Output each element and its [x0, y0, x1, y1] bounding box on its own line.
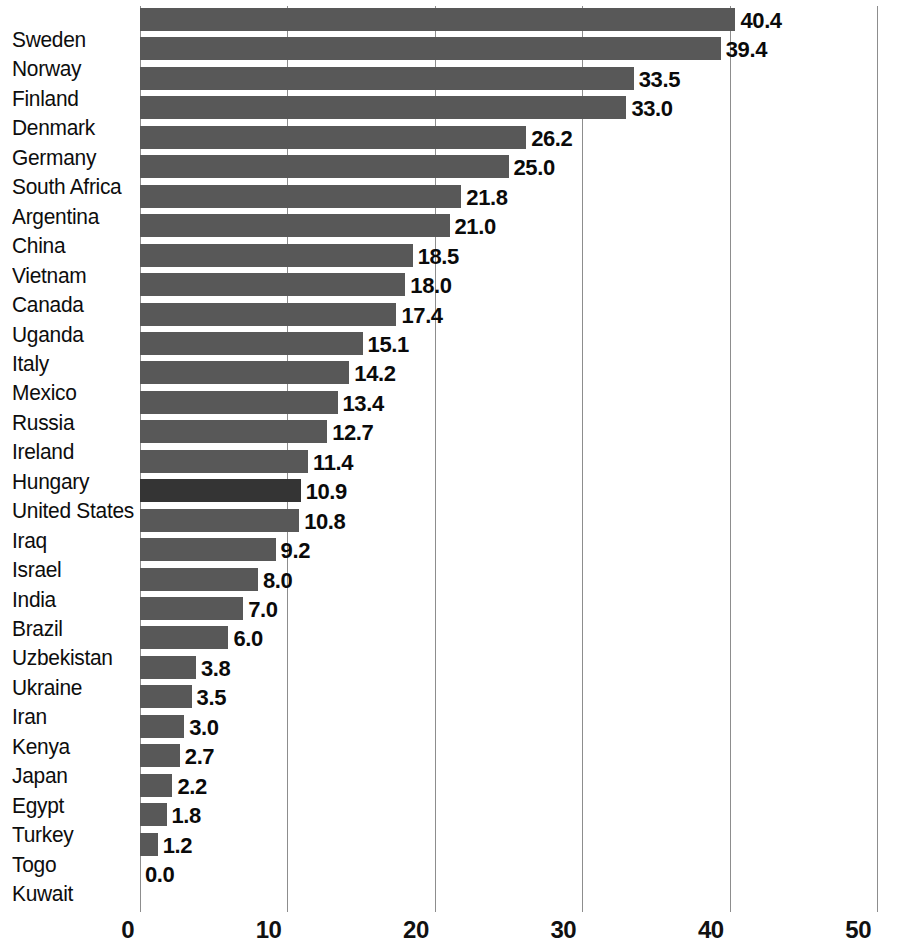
chart-row: Italy15.1	[0, 332, 901, 355]
bar	[140, 273, 405, 296]
bar	[140, 597, 243, 620]
value-label: 6.0	[233, 626, 262, 652]
x-axis-tick-label: 40	[698, 916, 730, 944]
chart-row: Hungary11.4	[0, 450, 901, 473]
chart-row: Brazil7.0	[0, 597, 901, 620]
bar	[140, 744, 180, 767]
bar	[140, 774, 172, 797]
bar	[140, 67, 634, 90]
chart-row: Russia13.4	[0, 391, 901, 414]
chart-row: Iran3.5	[0, 685, 901, 708]
bar	[140, 361, 349, 384]
value-label: 11.4	[313, 450, 353, 476]
bar	[140, 155, 509, 178]
chart-row: United States10.9	[0, 479, 901, 502]
bar	[140, 656, 196, 679]
value-label: 15.1	[368, 332, 409, 358]
value-label: 12.7	[332, 420, 373, 446]
chart-row: Japan2.7	[0, 744, 901, 767]
x-axis-tick-label: 30	[550, 916, 582, 944]
chart-row: Mexico14.2	[0, 361, 901, 384]
value-label: 0.0	[145, 862, 174, 888]
plot-area: 01020304050Sweden40.4Norway39.4Finland33…	[0, 0, 901, 947]
value-label: 25.0	[514, 155, 555, 181]
bar	[140, 538, 276, 561]
chart-row: Iraq10.8	[0, 509, 901, 532]
value-label: 14.2	[354, 361, 395, 387]
value-label: 10.8	[304, 509, 345, 535]
bar-chart: 01020304050Sweden40.4Norway39.4Finland33…	[0, 0, 901, 947]
bar	[140, 715, 184, 738]
chart-row: Uganda17.4	[0, 303, 901, 326]
chart-row: Kenya3.0	[0, 715, 901, 738]
bar	[140, 126, 526, 149]
bar	[140, 332, 363, 355]
value-label: 1.2	[163, 833, 192, 859]
bar	[140, 803, 167, 826]
bar	[140, 37, 721, 60]
x-axis-tick-label: 0	[121, 916, 140, 944]
value-label: 18.5	[418, 244, 459, 270]
value-label: 1.8	[172, 803, 201, 829]
chart-row: Ireland12.7	[0, 420, 901, 443]
chart-row: Egypt2.2	[0, 774, 901, 797]
value-label: 9.2	[281, 538, 310, 564]
chart-row: Germany26.2	[0, 126, 901, 149]
bar	[140, 185, 461, 208]
chart-row: Vietnam18.5	[0, 244, 901, 267]
value-label: 8.0	[263, 568, 292, 594]
chart-row: Togo1.2	[0, 833, 901, 856]
chart-row: Ukraine3.8	[0, 656, 901, 679]
bar	[140, 244, 413, 267]
bar	[140, 420, 327, 443]
value-label: 39.4	[726, 37, 767, 63]
value-label: 13.4	[343, 391, 384, 417]
value-label: 10.9	[306, 479, 347, 505]
bar	[140, 450, 308, 473]
bar	[140, 8, 735, 31]
value-label: 2.7	[185, 744, 214, 770]
chart-row: China21.0	[0, 214, 901, 237]
value-label: 18.0	[410, 273, 451, 299]
category-label: Kuwait	[12, 881, 73, 907]
value-label: 3.0	[189, 715, 218, 741]
bar	[140, 568, 258, 591]
chart-row: Denmark33.0	[0, 96, 901, 119]
chart-row: Canada18.0	[0, 273, 901, 296]
chart-row: Kuwait0.0	[0, 862, 901, 885]
x-axis-tick-label: 10	[256, 916, 288, 944]
x-axis-tick-label: 20	[403, 916, 435, 944]
chart-row: Finland33.5	[0, 67, 901, 90]
chart-row: Uzbekistan6.0	[0, 626, 901, 649]
chart-row: Norway39.4	[0, 37, 901, 60]
bar	[140, 479, 301, 502]
value-label: 21.8	[466, 185, 507, 211]
value-label: 33.5	[639, 67, 680, 93]
bar	[140, 509, 299, 532]
bar	[140, 96, 626, 119]
value-label: 2.2	[177, 774, 206, 800]
bar	[140, 626, 228, 649]
bar	[140, 685, 192, 708]
chart-row: Turkey1.8	[0, 803, 901, 826]
value-label: 33.0	[631, 96, 672, 122]
chart-row: Argentina21.8	[0, 185, 901, 208]
chart-row: India8.0	[0, 568, 901, 591]
value-label: 21.0	[455, 214, 496, 240]
chart-row: Sweden40.4	[0, 8, 901, 31]
chart-row: Israel9.2	[0, 538, 901, 561]
value-label: 3.5	[197, 685, 226, 711]
bar	[140, 833, 158, 856]
x-axis-tick-label: 50	[845, 916, 877, 944]
bar	[140, 214, 450, 237]
bar	[140, 303, 396, 326]
value-label: 40.4	[740, 8, 781, 34]
chart-row: South Africa25.0	[0, 155, 901, 178]
value-label: 26.2	[531, 126, 572, 152]
value-label: 3.8	[201, 656, 230, 682]
value-label: 17.4	[401, 303, 442, 329]
bar	[140, 391, 338, 414]
value-label: 7.0	[248, 597, 277, 623]
